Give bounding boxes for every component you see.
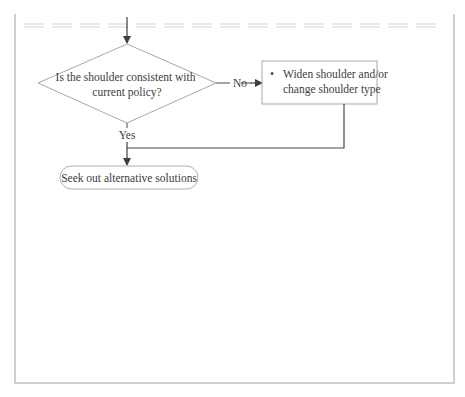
edge-yes-label: Yes xyxy=(119,129,136,141)
action-text-line-1: Widen shoulder and/or xyxy=(283,68,388,80)
action-bullet: • xyxy=(270,68,274,80)
flowchart: Is the shoulder consistent with current … xyxy=(0,0,465,397)
decision-diamond xyxy=(38,44,216,123)
decision-text-line-2: current policy? xyxy=(92,86,161,99)
action-text-line-2: change shoulder type xyxy=(283,83,381,96)
terminal-text: Seek out alternative solutions xyxy=(61,172,197,184)
return-connector xyxy=(127,104,344,148)
dashed-page-break xyxy=(24,24,440,27)
decision-text-line-1: Is the shoulder consistent with xyxy=(56,71,196,83)
